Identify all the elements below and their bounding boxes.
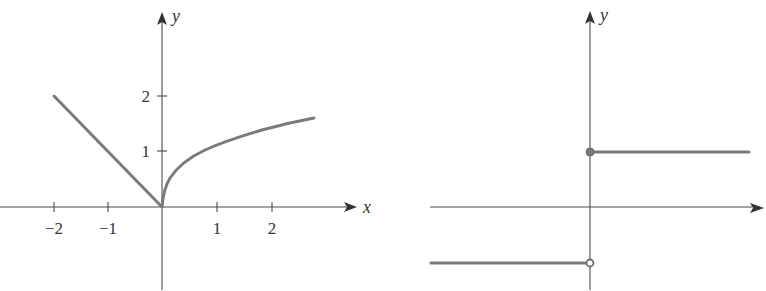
figure: x y −2 −1 1 2 2 1 y: [0, 0, 766, 291]
left-graph: x y −2 −1 1 2 2 1: [0, 6, 371, 290]
filled-endpoint-dot: [586, 148, 594, 156]
sqrt-branch-curve: [162, 118, 314, 207]
open-endpoint-circle: [587, 260, 594, 267]
x-tick-label-minus2: −2: [45, 219, 63, 238]
x-tick-label-1: 1: [213, 219, 222, 238]
x-tick-label-minus1: −1: [99, 219, 117, 238]
right-x-axis-arrow-icon: [750, 203, 764, 213]
left-x-axis-label: x: [362, 197, 371, 217]
x-tick-label-2: 2: [268, 219, 277, 238]
left-y-axis-label: y: [170, 6, 180, 26]
right-y-axis-label: y: [598, 5, 608, 25]
y-tick-label-1: 1: [142, 142, 151, 161]
y-tick-label-2: 2: [142, 87, 151, 106]
right-graph: y: [430, 5, 764, 290]
